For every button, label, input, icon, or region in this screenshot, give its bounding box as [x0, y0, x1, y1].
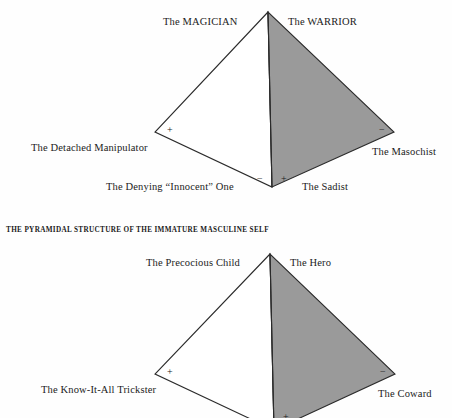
upper-front-vertex-plus-sign: +	[281, 174, 287, 184]
upper-right-vertex-minus-sign: −	[379, 125, 385, 135]
figure-caption: THE PYRAMIDAL STRUCTURE OF THE IMMATURE …	[6, 226, 269, 234]
label-the-magician: The MAGICIAN	[163, 16, 237, 28]
upper-pyramid-right-face	[268, 12, 394, 187]
lower-pyramid-right-face	[270, 254, 395, 418]
label-the-masochist: The Masochist	[372, 146, 436, 158]
label-the-know-it-all-trickster: The Know-It-All Trickster	[41, 384, 156, 396]
label-the-sadist: The Sadist	[302, 181, 348, 193]
upper-left-vertex-plus-sign: +	[167, 125, 173, 135]
label-the-hero: The Hero	[290, 257, 331, 269]
lower-pyramid-left-face	[155, 254, 274, 418]
label-the-denying-innocent-one: The Denying “Innocent” One	[106, 181, 234, 193]
label-the-precocious-child: The Precocious Child	[146, 257, 240, 269]
label-the-detached-manipulator: The Detached Manipulator	[31, 142, 148, 154]
lower-front-vertex-plus-sign: +	[283, 412, 289, 418]
upper-front-vertex-minus-sign: −	[257, 174, 263, 184]
figure-upper-pyramid: + − − + The MAGICIAN The WARRIOR The Det…	[0, 0, 452, 215]
label-the-warrior: The WARRIOR	[288, 16, 357, 28]
diagram-page: + − − + The MAGICIAN The WARRIOR The Det…	[0, 0, 452, 418]
figure-lower-pyramid: + − + The Precocious Child The Hero The …	[0, 244, 452, 418]
upper-pyramid-left-face	[155, 12, 272, 187]
label-the-coward: The Coward	[378, 388, 432, 400]
lower-left-vertex-plus-sign: +	[167, 367, 173, 377]
lower-right-vertex-minus-sign: −	[380, 367, 386, 377]
